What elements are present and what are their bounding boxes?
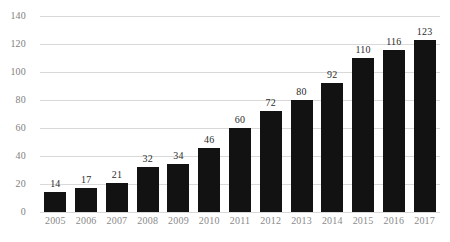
bar-value-label: 80 bbox=[296, 87, 306, 97]
bar bbox=[44, 192, 66, 212]
bar bbox=[414, 40, 436, 212]
bar-group: 32 bbox=[132, 16, 163, 212]
bar-group: 116 bbox=[378, 16, 409, 212]
bar bbox=[75, 188, 97, 212]
bar-group: 34 bbox=[163, 16, 194, 212]
bar-group: 72 bbox=[255, 16, 286, 212]
bar-group: 80 bbox=[286, 16, 317, 212]
x-axis-tick-label: 2011 bbox=[230, 216, 250, 226]
bar-value-label: 116 bbox=[386, 37, 401, 47]
bar-value-label: 110 bbox=[355, 45, 370, 55]
bar bbox=[167, 164, 189, 212]
bar-group: 14 bbox=[40, 16, 71, 212]
bar bbox=[352, 58, 374, 212]
x-axis-tick-label: 2005 bbox=[45, 216, 66, 226]
bar-group: 60 bbox=[225, 16, 256, 212]
bar-group: 21 bbox=[102, 16, 133, 212]
bar-value-label: 14 bbox=[50, 179, 60, 189]
y-axis-tick-label: 120 bbox=[0, 39, 26, 49]
bar-group: 17 bbox=[71, 16, 102, 212]
y-axis-tick-label: 80 bbox=[0, 95, 26, 105]
bar bbox=[383, 50, 405, 212]
y-axis-tick-label: 140 bbox=[0, 11, 26, 21]
bar-group: 92 bbox=[317, 16, 348, 212]
bar-group: 46 bbox=[194, 16, 225, 212]
bar-value-label: 34 bbox=[173, 151, 183, 161]
x-axis-tick-label: 2006 bbox=[76, 216, 97, 226]
bar-value-label: 60 bbox=[235, 115, 245, 125]
x-axis-tick-label: 2017 bbox=[414, 216, 435, 226]
bar-value-label: 17 bbox=[81, 175, 91, 185]
bar bbox=[260, 111, 282, 212]
bar bbox=[291, 100, 313, 212]
bar-value-label: 46 bbox=[204, 135, 214, 145]
bar bbox=[106, 183, 128, 212]
x-axis-tick-label: 2012 bbox=[260, 216, 281, 226]
x-axis-tick-label: 2014 bbox=[322, 216, 343, 226]
x-axis-tick-label: 2015 bbox=[353, 216, 374, 226]
x-axis-tick-label: 2010 bbox=[199, 216, 220, 226]
x-axis-tick-label: 2007 bbox=[107, 216, 128, 226]
bar bbox=[229, 128, 251, 212]
bar bbox=[137, 167, 159, 212]
y-axis-tick-label: 40 bbox=[0, 151, 26, 161]
y-axis-tick-label: 100 bbox=[0, 67, 26, 77]
bar-group: 110 bbox=[348, 16, 379, 212]
x-axis-tick-label: 2009 bbox=[168, 216, 189, 226]
bars-series: 14172132344660728092110116123 bbox=[40, 16, 440, 212]
y-axis-tick-label: 0 bbox=[0, 207, 26, 217]
x-axis-tick-label: 2013 bbox=[291, 216, 312, 226]
bar-value-label: 92 bbox=[327, 70, 337, 80]
y-axis-tick-label: 20 bbox=[0, 179, 26, 189]
bar-chart: 020406080100120140 141721323446607280921… bbox=[0, 0, 450, 242]
bar-value-label: 123 bbox=[417, 27, 433, 37]
x-axis-tick-labels: 2005200620072008200920102011201220132014… bbox=[40, 216, 440, 234]
gridline bbox=[40, 212, 440, 213]
x-axis-tick-label: 2008 bbox=[137, 216, 158, 226]
bar-value-label: 32 bbox=[142, 154, 152, 164]
y-axis-tick-label: 60 bbox=[0, 123, 26, 133]
bar bbox=[198, 148, 220, 212]
bar-value-label: 21 bbox=[112, 170, 122, 180]
plot-area: 020406080100120140 141721323446607280921… bbox=[40, 16, 440, 212]
bar-value-label: 72 bbox=[266, 98, 276, 108]
bar bbox=[321, 83, 343, 212]
bar-group: 123 bbox=[409, 16, 440, 212]
x-axis-tick-label: 2016 bbox=[383, 216, 404, 226]
